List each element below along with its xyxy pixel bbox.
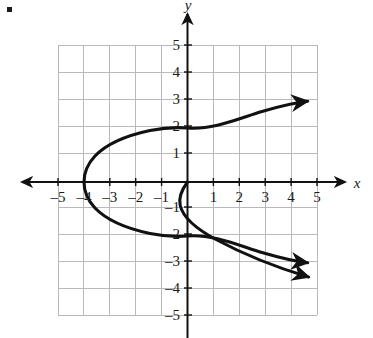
y-tick-label: –2 bbox=[164, 226, 180, 242]
x-tick-label: 4 bbox=[287, 189, 295, 205]
y-tick-label: 3 bbox=[173, 91, 181, 107]
y-tick-labels: 5 4 3 2 1 –1 –2 –3 –4 –5 bbox=[164, 37, 181, 323]
x-tick-label: –3 bbox=[101, 189, 117, 205]
y-tick-label: –5 bbox=[164, 307, 180, 323]
y-tick-label: –3 bbox=[164, 253, 180, 269]
y-tick-label: 5 bbox=[173, 37, 181, 53]
bullet-marker bbox=[7, 7, 12, 12]
graph-figure: –5 –4 –3 –2 –1 1 2 3 4 5 5 4 3 2 1 –1 –2… bbox=[0, 0, 373, 338]
y-tick-label: –1 bbox=[164, 199, 180, 215]
y-tick-label: –4 bbox=[164, 280, 181, 296]
x-tick-label: –4 bbox=[75, 189, 92, 205]
x-axis-label: x bbox=[353, 175, 361, 191]
coordinate-plane: –5 –4 –3 –2 –1 1 2 3 4 5 5 4 3 2 1 –1 –2… bbox=[0, 0, 373, 338]
y-axis-label: y bbox=[183, 0, 192, 13]
x-tick-label: –5 bbox=[50, 189, 66, 205]
y-tick-label: 2 bbox=[173, 118, 181, 134]
x-tick-label: 2 bbox=[236, 189, 244, 205]
y-tick-label: 1 bbox=[173, 145, 181, 161]
x-tick-label: 3 bbox=[261, 189, 269, 205]
x-tick-label: 1 bbox=[210, 189, 218, 205]
x-tick-label: –2 bbox=[127, 189, 143, 205]
x-tick-labels: –5 –4 –3 –2 –1 1 2 3 4 5 bbox=[50, 189, 321, 205]
x-tick-label: 5 bbox=[313, 189, 321, 205]
y-tick-label: 4 bbox=[173, 64, 181, 80]
